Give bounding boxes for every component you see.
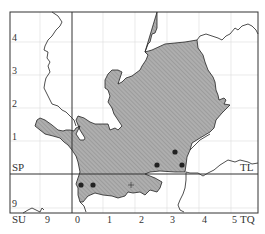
y-label: 1 [12,132,17,142]
x-label: 4 [202,215,207,225]
x-label: 2 [139,215,144,225]
square-label-tl: TL [240,162,253,173]
x-label: 0 [75,215,80,225]
y-label: 2 [12,99,17,109]
square-label-sp: SP [12,162,24,173]
record-dot [172,149,177,154]
square-label-su: SU [12,214,26,225]
record-dot [179,162,184,167]
distribution-map [0,0,265,234]
x-label: 5 [232,215,237,225]
x-label: 3 [170,215,175,225]
record-dot [154,162,159,167]
record-dot [90,182,95,187]
y-label: 9 [12,199,17,209]
x-label: 9 [45,215,50,225]
record-dot [78,182,83,187]
y-label: 3 [12,66,17,76]
y-label: 4 [12,33,17,43]
square-label-tq: TQ [240,214,255,225]
x-label: 1 [107,215,112,225]
